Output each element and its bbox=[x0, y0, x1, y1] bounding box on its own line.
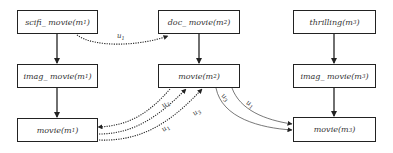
node-label: thrilling bbox=[309, 18, 342, 27]
edge-u2-m2-to-m1 bbox=[98, 89, 170, 127]
edge-u1-m1-to-m2 bbox=[99, 89, 186, 134]
node-imag-movie-m1: imag_ movie(m1) bbox=[17, 64, 98, 88]
node-label: doc_ movie bbox=[168, 18, 213, 27]
node-label: movie bbox=[178, 72, 202, 81]
node-imag-movie-m3: imag_ movie(m3) bbox=[293, 64, 376, 88]
edge-u1-m2-to-m3 bbox=[232, 88, 292, 124]
edge-label-u1-top: u1 bbox=[117, 32, 125, 41]
node-movie-m3: movie(m3) bbox=[293, 117, 376, 142]
node-movie-m1: movie(m1) bbox=[17, 118, 98, 142]
node-doc-movie-m2: doc_ movie(m2) bbox=[158, 10, 240, 34]
node-movie-m2: movie(m2) bbox=[158, 64, 240, 88]
node-label: imag_ movie bbox=[23, 72, 74, 81]
diagram-canvas: scifi_ movie(m1) imag_ movie(m1) movie(m… bbox=[0, 0, 393, 153]
node-label: scifi_ movie bbox=[25, 18, 72, 27]
node-label: movie bbox=[314, 125, 338, 134]
node-scifi-movie-m1: scifi_ movie(m1) bbox=[17, 10, 98, 34]
node-thrilling-m3: thrilling(m3) bbox=[293, 10, 376, 34]
node-label: movie bbox=[37, 126, 61, 135]
node-label: imag_ movie bbox=[300, 72, 351, 81]
